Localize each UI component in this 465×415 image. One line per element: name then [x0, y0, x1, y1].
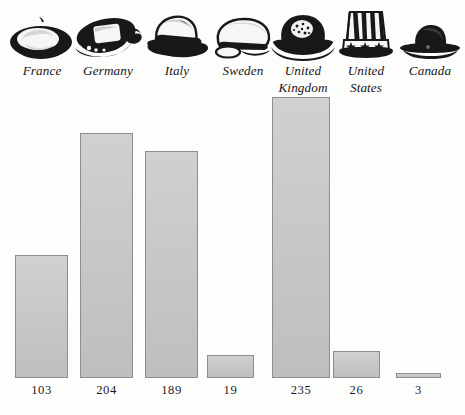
value-label-united-states: 26 [333, 381, 380, 399]
bar-united-kingdom [272, 97, 330, 378]
plot-area [0, 0, 465, 415]
value-label-canada: 3 [396, 381, 441, 399]
bar-italy [145, 151, 198, 378]
value-label-row: 103 204 189 19 235 26 3 [0, 381, 465, 405]
bar-canada [396, 373, 441, 378]
bar-united-states [333, 351, 380, 378]
value-label-italy: 189 [145, 381, 198, 399]
value-label-france: 103 [15, 381, 68, 399]
value-label-united-kingdom: 235 [272, 381, 330, 399]
value-label-sweden: 19 [207, 381, 254, 399]
value-label-germany: 204 [80, 381, 133, 399]
bar-france [15, 255, 68, 378]
bar-germany [80, 133, 133, 378]
chart-figure: France Germany Italy Sweden United Kingd… [0, 0, 465, 415]
bar-sweden [207, 355, 254, 378]
